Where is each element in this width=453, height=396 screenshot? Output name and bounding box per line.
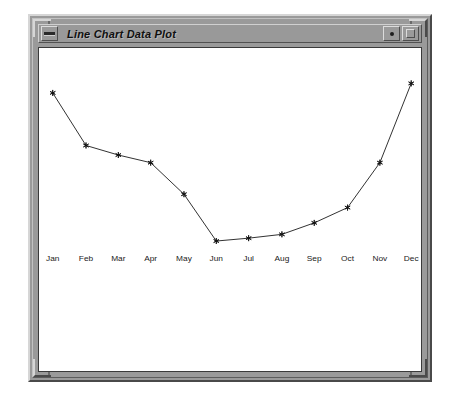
window-menu-dash-icon bbox=[44, 32, 55, 36]
window-title: Line Chart Data Plot bbox=[59, 28, 382, 40]
x-axis-tick-label: Sep bbox=[307, 254, 322, 263]
application-window: Line Chart Data Plot JanFebMarAprMayJunJ… bbox=[28, 14, 432, 382]
screen: Line Chart Data Plot JanFebMarAprMayJunJ… bbox=[0, 0, 453, 396]
x-axis-tick-label: Aug bbox=[275, 254, 290, 263]
minimize-button[interactable] bbox=[383, 26, 400, 41]
plot-canvas: JanFebMarAprMayJunJulAugSepOctNovDec bbox=[38, 47, 422, 372]
x-axis-tick-label: Dec bbox=[404, 254, 419, 263]
x-axis-tick-label: May bbox=[176, 254, 193, 263]
title-bar[interactable]: Line Chart Data Plot bbox=[38, 24, 422, 43]
chart-line-series bbox=[53, 83, 411, 241]
chart-marker-group bbox=[50, 80, 414, 244]
maximize-square-icon bbox=[406, 29, 415, 38]
x-axis-tick-label: Jul bbox=[243, 254, 254, 263]
minimize-dot-icon bbox=[390, 32, 394, 36]
x-axis-tick-label: Nov bbox=[372, 254, 388, 263]
x-axis-tick-label: Apr bbox=[144, 254, 157, 263]
window-menu-button[interactable] bbox=[41, 26, 58, 41]
window-inner-frame: Line Chart Data Plot JanFebMarAprMayJunJ… bbox=[32, 18, 428, 378]
data-point-marker bbox=[312, 220, 317, 226]
maximize-button[interactable] bbox=[402, 26, 419, 41]
x-axis-tick-label: Mar bbox=[111, 254, 126, 263]
line-chart: JanFebMarAprMayJunJulAugSepOctNovDec bbox=[39, 48, 421, 371]
x-axis-tick-label: Jan bbox=[46, 254, 60, 263]
x-axis-tick-label: Feb bbox=[79, 254, 94, 263]
data-point-marker bbox=[409, 80, 414, 86]
x-axis-tick-labels: JanFebMarAprMayJunJulAugSepOctNovDec bbox=[46, 254, 419, 263]
title-bar-buttons bbox=[382, 26, 421, 41]
x-axis-tick-label: Oct bbox=[341, 254, 355, 263]
x-axis-tick-label: Jun bbox=[210, 254, 224, 263]
